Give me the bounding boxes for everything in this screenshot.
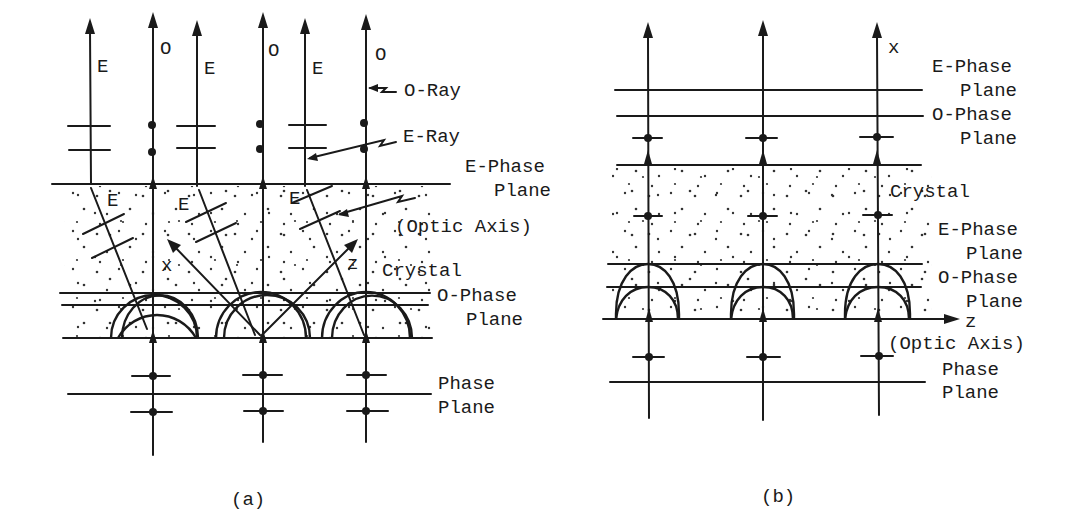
- e-phase-label-1: E-Phase: [465, 156, 545, 178]
- crystal-ray-tag-e-3: E: [289, 188, 300, 210]
- o-phase-top-label-1: O-Phase: [932, 104, 1012, 126]
- crystal-ray-tag-e-2: E: [178, 194, 189, 216]
- crystal-ray-tag-e-1: E: [107, 190, 118, 212]
- ray-tag-e-2: E: [204, 58, 215, 80]
- o-phase-label-1: O-Phase: [437, 285, 517, 307]
- o-phase-top-label-2: Plane: [960, 128, 1017, 150]
- caption-b: (b): [761, 486, 795, 508]
- phase-label-1: Phase: [438, 373, 495, 395]
- phase-label-2: Plane: [438, 397, 495, 419]
- o-phase-label-2-b: Plane: [966, 291, 1023, 313]
- crystal-label: Crystal: [382, 260, 462, 282]
- ray-tag-o-1: O: [160, 38, 171, 60]
- axis-x-label-b: x: [888, 37, 899, 59]
- ray-tag-o-3: O: [375, 44, 386, 66]
- o-phase-label-1-b: O-Phase: [938, 267, 1018, 289]
- ray-tag-o-2: O: [268, 40, 279, 62]
- caption-a: (a): [231, 489, 265, 511]
- e-ray-label: E-Ray: [403, 126, 460, 148]
- o-ray-label: O-Ray: [404, 80, 461, 102]
- e-phase-label-1-b: E-Phase: [938, 219, 1018, 241]
- o-phase-label-2: Plane: [466, 309, 523, 331]
- e-phase-top-label-2: Plane: [960, 80, 1017, 102]
- optic-axis-label: (Optic Axis): [395, 216, 532, 238]
- axis-x-label: x: [161, 255, 172, 277]
- axis-z-label-b: z: [965, 311, 976, 333]
- phase-label-2-b: Plane: [942, 382, 999, 404]
- birefringence-diagram: E O E O E O E E E x z O-Ray E-Ray E-Phas…: [0, 0, 1091, 528]
- crystal-label-b: Crystal: [890, 181, 970, 203]
- ray-tag-e-3: E: [312, 58, 323, 80]
- e-phase-label-2-b: Plane: [966, 243, 1023, 265]
- e-phase-top-label-1: E-Phase: [932, 56, 1012, 78]
- optic-axis-label-b: (Optic Axis): [888, 333, 1025, 355]
- panel-a: E O E O E O E E E x z O-Ray E-Ray E-Phas…: [52, 12, 551, 511]
- ray-tag-e-1: E: [97, 56, 108, 78]
- panel-b: x E-Phase Plane O-Phase Plane Crystal E-…: [603, 20, 1025, 508]
- o-ray-dots: [148, 119, 368, 156]
- phase-label-1-b: Phase: [942, 359, 999, 381]
- axis-z-label: z: [347, 253, 358, 275]
- e-phase-label-2: Plane: [494, 180, 551, 202]
